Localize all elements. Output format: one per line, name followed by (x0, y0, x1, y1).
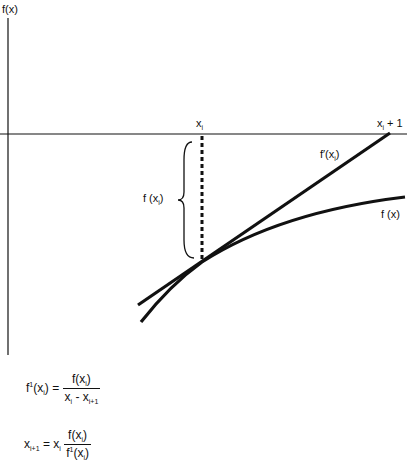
update-fraction: f(xi) f1(xi) (64, 428, 91, 462)
xi-plus-1-label: xi + 1 (377, 117, 403, 131)
equation-newton-update: xi+1 = xi f(xi) f1(xi) (24, 428, 91, 462)
y-axis-label: f(x) (2, 3, 18, 15)
tangent-label: f′(xi) (320, 148, 340, 162)
derivative-fraction: f(xi) xi - xi+1 (63, 372, 101, 406)
curve-label: f (x) (381, 208, 400, 220)
function-curve (141, 197, 405, 322)
curly-brace (178, 142, 194, 258)
brace-label: f (xi) (143, 192, 164, 206)
tangent-line (138, 133, 390, 305)
equation-derivative: f1(xi) = f(xi) xi - xi+1 (26, 372, 100, 406)
xi-label: xi (196, 117, 203, 131)
